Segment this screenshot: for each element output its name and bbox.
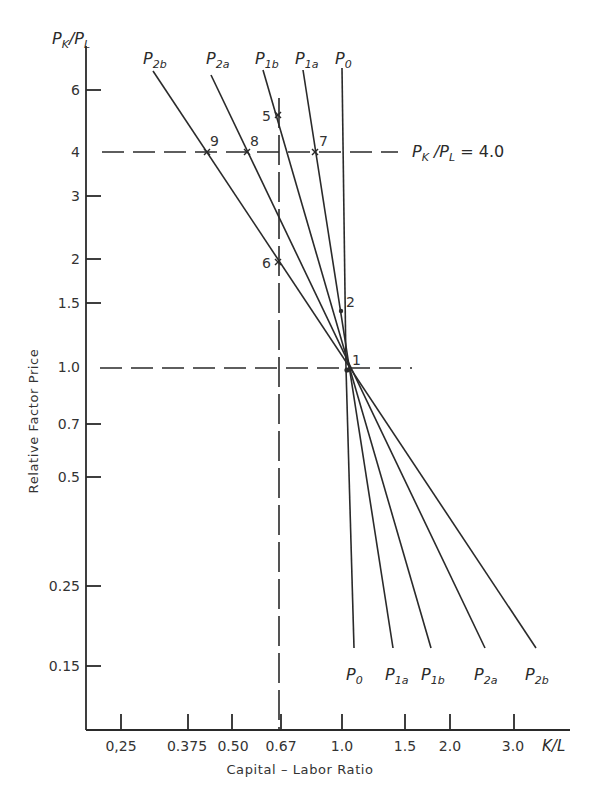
y-tick-1-0: 1.0 [58, 359, 80, 375]
y-tick-0-15: 0.15 [49, 658, 80, 674]
point-2-label: 2 [346, 294, 355, 310]
y-tick-0-7: 0.7 [58, 416, 80, 432]
x-tick-1-5: 1.5 [394, 738, 416, 754]
x-axis-end-label: K/L [542, 737, 565, 755]
label-p2b-bottom: P2b [525, 665, 549, 687]
x-tick-1-0: 1.0 [331, 738, 353, 754]
label-p0-bottom: P0 [346, 665, 363, 687]
line-p0-lower [346, 368, 354, 648]
label-p0-top: P0 [335, 49, 352, 71]
point-8-label: 8 [250, 133, 259, 149]
line-p1a [303, 70, 393, 648]
y-axis-top-label: PK/PL [52, 29, 90, 51]
y-tick-0-25: 0.25 [49, 578, 80, 594]
ref-line-label: PK /PL = 4.0 [412, 142, 504, 164]
label-p2b-top: P2b [143, 49, 167, 71]
x-tick-0-50: 0.50 [217, 738, 248, 754]
label-p1b-bottom: P1b [421, 665, 445, 687]
label-p1a-top: P1a [295, 49, 319, 71]
y-tick-2: 2 [71, 251, 80, 267]
y-axis-title: Relative Factor Price [26, 349, 41, 494]
label-p1b-top: P1b [255, 49, 279, 71]
point-6-label: 6 [262, 255, 271, 271]
series-bottom-labels: P0 P1a P1b P2a P2b [346, 665, 549, 687]
point-2-marker [339, 309, 343, 313]
x-axis-title: Capital – Labor Ratio [226, 762, 373, 777]
x-tick-0-25: 0,25 [105, 738, 136, 754]
y-tick-6: 6 [71, 82, 80, 98]
point-5-label: 5 [262, 108, 271, 124]
x-tick-3-0: 3.0 [502, 738, 524, 754]
x-ticks [121, 714, 514, 730]
y-tick-0-5: 0.5 [58, 469, 80, 485]
y-tick-4: 4 [71, 144, 80, 160]
point-9-label: 9 [210, 133, 219, 149]
label-p2a-top: P2a [206, 49, 230, 71]
x-tick-labels: 0,25 0.375 0.50 0.67 1.0 1.5 2.0 3.0 [105, 738, 524, 754]
y-tick-labels: 6 4 3 2 1.5 1.0 0.7 0.5 0.25 0.15 [49, 82, 80, 674]
chart-canvas: PK/PL 6 4 3 2 1.5 1.0 0.7 0.5 0.25 0.15 … [0, 0, 603, 796]
y-tick-1-5: 1.5 [58, 295, 80, 311]
point-7-label: 7 [319, 133, 328, 149]
x-tick-0-375: 0.375 [167, 738, 207, 754]
y-ticks [86, 90, 101, 666]
label-p1a-bottom: P1a [385, 665, 409, 687]
y-tick-3: 3 [71, 188, 80, 204]
point-1-marker [344, 367, 349, 372]
x-tick-0-67: 0.67 [265, 738, 296, 754]
series-top-labels: P2b P2a P1b P1a P0 [143, 49, 352, 71]
label-p2a-bottom: P2a [474, 665, 498, 687]
point-1-label: 1 [352, 352, 361, 368]
x-tick-2-0: 2.0 [439, 738, 461, 754]
